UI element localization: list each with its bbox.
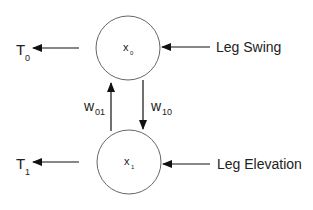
input-label-leg-swing: Leg Swing [216, 39, 281, 55]
weight-w10-label: w [150, 98, 162, 114]
node-x1-sub: 1 [131, 164, 135, 170]
node-x0: x 0 [96, 16, 160, 80]
output-t0-label: T [16, 41, 25, 58]
neural-oscillator-diagram: x 0 x 1 T 0 T 1 Leg Swing Leg Elevation … [0, 0, 313, 210]
node-x0-label: x [123, 41, 129, 53]
output-t1-label: T [16, 155, 25, 172]
input-label-leg-elevation: Leg Elevation [217, 156, 302, 172]
weight-w01-label: w [83, 98, 95, 114]
node-x1-label: x [124, 155, 130, 167]
node-x0-sub: 0 [130, 50, 134, 56]
node-x1: x 1 [97, 130, 161, 194]
output-t1-sub: 1 [25, 167, 30, 177]
weight-w10-sub: 10 [162, 107, 172, 117]
output-t0-sub: 0 [25, 53, 30, 63]
weight-w01-sub: 01 [95, 107, 105, 117]
